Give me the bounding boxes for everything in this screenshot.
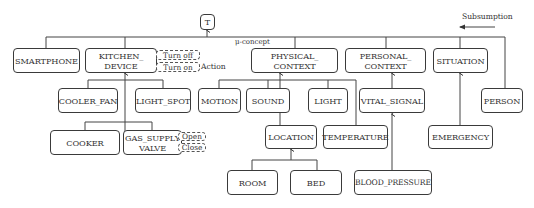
action-label: Action <box>201 62 226 71</box>
node-bed[interactable]: BED <box>290 170 342 195</box>
node-light[interactable]: LIGHT <box>308 88 348 113</box>
mu-concept-label: μ-concept <box>235 38 270 46</box>
node-motion[interactable]: MOTION <box>198 88 241 113</box>
node-smartphone[interactable]: SMARTPHONE <box>13 48 80 73</box>
subsumption-legend-label: Subsumption <box>462 12 513 21</box>
node-room[interactable]: ROOM <box>227 170 278 195</box>
node-physical-context[interactable]: PHYSICAL_ CONTEXT <box>251 48 338 73</box>
action-turn-off[interactable]: Turn off <box>156 50 200 60</box>
action-turn-on[interactable]: Turn on <box>156 62 200 72</box>
node-personal-context[interactable]: PERSONAL_ CONTEXT <box>345 48 426 73</box>
node-location[interactable]: LOCATION <box>265 125 317 149</box>
action-open[interactable]: Open <box>178 132 206 141</box>
node-situation[interactable]: SITUATION <box>433 48 488 73</box>
node-temperature[interactable]: TEMPERATURE <box>323 125 388 149</box>
action-close[interactable]: Close <box>178 143 206 152</box>
node-cooler-fan[interactable]: COOLER_FAN <box>58 88 118 113</box>
node-blood-pressure[interactable]: BLOOD_PRESSURE <box>354 170 432 195</box>
node-cooker[interactable]: COOKER <box>50 130 120 155</box>
node-gas-supply-valve[interactable]: GAS_SUPPLY VALVE <box>123 130 182 155</box>
node-person[interactable]: PERSON <box>481 88 523 113</box>
node-sound[interactable]: SOUND <box>246 88 290 113</box>
node-vital-signal[interactable]: VITAL_SIGNAL <box>359 88 425 113</box>
node-light-spot[interactable]: LIGHT_SPOT <box>135 88 191 113</box>
node-kitchen-device[interactable]: KITCHEN_ DEVICE <box>85 48 157 73</box>
root-node[interactable]: T <box>200 14 215 30</box>
node-emergency[interactable]: EMERGENCY <box>428 125 493 149</box>
